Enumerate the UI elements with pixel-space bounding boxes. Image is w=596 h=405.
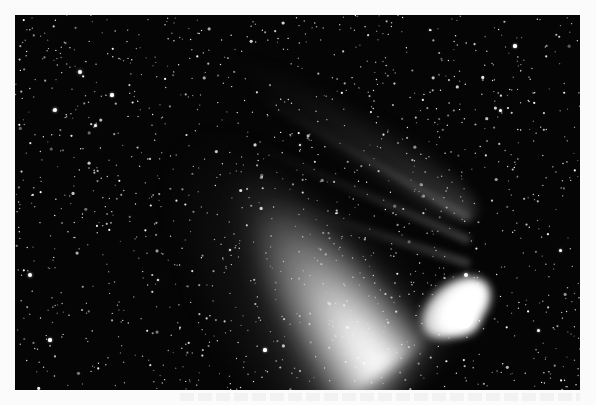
bright-star	[299, 144, 302, 147]
bright-star	[28, 273, 32, 277]
bright-stars	[15, 15, 580, 390]
page	[0, 0, 596, 405]
bright-star	[499, 109, 502, 112]
bright-star	[229, 249, 232, 252]
bright-star	[78, 70, 82, 74]
caption-bleed-through	[180, 393, 580, 401]
bright-star	[94, 124, 97, 127]
bright-star	[429, 29, 432, 32]
bright-star	[513, 44, 516, 47]
bright-star	[559, 249, 562, 252]
bright-star	[157, 279, 160, 282]
bright-star	[48, 338, 51, 341]
bright-star	[53, 108, 57, 112]
bright-star	[464, 273, 469, 278]
comet-photograph	[15, 15, 580, 390]
bright-star	[537, 329, 540, 332]
bright-star	[110, 93, 113, 96]
bright-star	[263, 348, 266, 351]
